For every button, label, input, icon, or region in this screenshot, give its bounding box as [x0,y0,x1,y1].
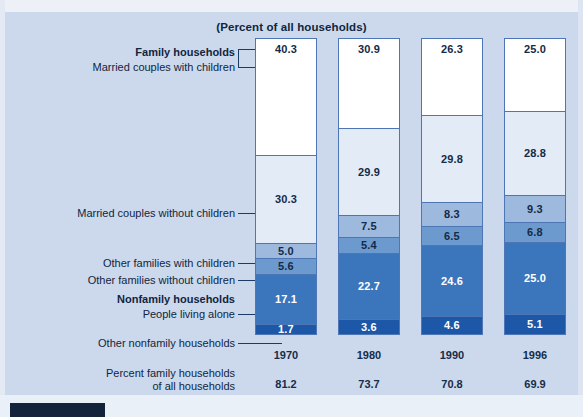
footer-label-line2: of all households [5,380,235,393]
value-other-nonfamily-1970: 1.7 [278,324,294,335]
segment-other-families-without-children-1980[interactable]: 5.4 [338,237,400,253]
segment-married-with-children-1980[interactable]: 30.9 [338,38,400,128]
value-other-families-without-children-1980: 5.4 [361,240,377,251]
footer-label-line1: Percent family households [5,367,235,380]
value-other-families-with-children-1980: 7.5 [361,221,377,232]
value-other-nonfamily-1980: 3.6 [361,322,377,333]
segment-other-nonfamily-1970[interactable]: 1.7 [255,324,317,335]
segment-married-with-children-1990[interactable]: 26.3 [421,38,483,115]
axis-year-1970: 1970 [255,349,317,361]
segment-other-families-without-children-1996[interactable]: 6.8 [504,222,566,242]
corner-mark [10,403,105,417]
footer-value-1970: 81.2 [255,378,317,390]
segment-people-living-alone-1990[interactable]: 24.6 [421,245,483,316]
segment-people-living-alone-1980[interactable]: 22.7 [338,253,400,319]
segment-married-without-children-1980[interactable]: 29.9 [338,128,400,215]
label-nonfamily-households: Nonfamily households [5,293,235,305]
segment-people-living-alone-1970[interactable]: 17.1 [255,274,317,324]
label-other-families-without-children: Other families without children [5,274,235,286]
value-married-without-children-1996: 28.8 [524,148,546,159]
leader-top-married-with-children [238,49,255,50]
chart-plate: (Percent of all households) Family house… [5,12,578,395]
axis-year-1980: 1980 [338,349,400,361]
segment-other-families-without-children-1990[interactable]: 6.5 [421,226,483,245]
chart-figure: (Percent of all households) Family house… [0,0,583,417]
footer-value-1980: 73.7 [338,378,400,390]
axis-year-1996: 1996 [504,349,566,361]
value-married-with-children-1970: 40.3 [275,44,297,55]
leader-other-nonfamily-households [238,343,282,344]
axis-year-1990: 1990 [421,349,483,361]
segment-other-families-with-children-1990[interactable]: 8.3 [421,202,483,226]
chart-title: (Percent of all households) [5,21,578,33]
segment-married-with-children-1996[interactable]: 25.0 [504,38,566,111]
segment-other-nonfamily-1980[interactable]: 3.6 [338,319,400,335]
label-other-families-with-children: Other families with children [5,257,235,269]
value-married-without-children-1990: 29.8 [441,154,463,165]
footer-value-1996: 69.9 [504,378,566,390]
segment-other-families-without-children-1970[interactable]: 5.6 [255,258,317,274]
value-other-families-with-children-1990: 8.3 [444,209,460,220]
segment-other-nonfamily-1990[interactable]: 4.6 [421,316,483,335]
value-other-families-with-children-1996: 9.3 [527,204,543,215]
segment-married-with-children-1970[interactable]: 40.3 [255,38,317,155]
segment-married-without-children-1970[interactable]: 30.3 [255,155,317,243]
segment-other-families-with-children-1970[interactable]: 5.0 [255,243,317,258]
segment-other-families-with-children-1980[interactable]: 7.5 [338,215,400,237]
label-married-without-children: Married couples without children [5,207,235,219]
value-married-with-children-1980: 30.9 [358,44,380,55]
label-family-households: Family households [5,46,235,58]
value-other-families-with-children-1970: 5.0 [278,246,294,257]
label-other-nonfamily-households: Other nonfamily households [5,337,235,349]
value-people-living-alone-1990: 24.6 [441,276,463,287]
value-people-living-alone-1980: 22.7 [358,281,380,292]
value-other-families-without-children-1996: 6.8 [527,227,543,238]
segment-married-without-children-1990[interactable]: 29.8 [421,115,483,202]
value-married-without-children-1980: 29.9 [358,167,380,178]
value-other-nonfamily-1996: 5.1 [527,319,543,330]
label-married-with-children: Married couples with children [5,61,235,73]
value-married-without-children-1970: 30.3 [275,194,297,205]
segment-other-nonfamily-1996[interactable]: 5.1 [504,314,566,335]
value-married-with-children-1996: 25.0 [524,44,546,55]
value-married-with-children-1990: 26.3 [441,44,463,55]
segment-married-without-children-1996[interactable]: 28.8 [504,111,566,195]
value-people-living-alone-1996: 25.0 [524,273,546,284]
value-other-nonfamily-1990: 4.6 [444,320,460,331]
label-people-living-alone: People living alone [5,308,235,320]
footer-value-1990: 70.8 [421,378,483,390]
value-people-living-alone-1970: 17.1 [275,294,297,305]
value-other-families-without-children-1970: 5.6 [278,261,294,272]
footer-label: Percent family households of all househo… [5,367,235,393]
bar-1980[interactable]: 30.9 29.9 7.5 5.4 22.7 3.6 [338,38,400,335]
bar-1996[interactable]: 25.0 28.8 9.3 6.8 25.0 5.1 [504,38,566,335]
bar-1970[interactable]: 40.3 30.3 5.0 5.6 17.1 1.7 [255,38,317,335]
segment-other-families-with-children-1996[interactable]: 9.3 [504,195,566,222]
value-other-families-without-children-1990: 6.5 [444,231,460,242]
page-right-edge [578,0,583,417]
leader-vertical-married-with-children [238,49,239,68]
bar-1990[interactable]: 26.3 29.8 8.3 6.5 24.6 4.6 [421,38,483,335]
segment-people-living-alone-1996[interactable]: 25.0 [504,242,566,314]
page-top-edge [0,0,583,12]
